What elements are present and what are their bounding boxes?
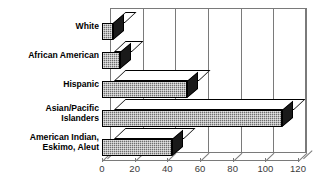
value-tick-mark [265,158,266,162]
value-axis-tick-labels: 020406080100120 [102,163,302,177]
value-tick-mark [135,158,136,162]
plot-area [102,8,298,160]
category-label: Asian/Pacific Islanders [0,104,99,123]
value-tick-label: 120 [283,163,313,174]
bar [102,73,195,90]
category-label: American Indian, Eskimo, Aleut [0,133,99,152]
value-tick-label: 60 [185,163,215,174]
category-axis-labels: WhiteAfrican AmericanHispanicAsian/Pacif… [0,10,101,158]
value-tick-mark [167,158,168,162]
value-tick-label: 80 [218,163,248,174]
bar [102,15,121,32]
bar-front-face [102,23,113,40]
bar-front-face [102,81,187,98]
value-tick-label: 100 [250,163,280,174]
bar-top-face [114,99,305,110]
bar-front-face [102,110,282,127]
value-tick-mark [200,158,201,162]
bar [102,44,128,61]
chart-title [0,0,314,2]
category-label: White [0,22,99,32]
bar-series [102,8,306,160]
value-tick-mark [233,158,234,162]
bar-side-face [113,13,124,39]
bar-top-face [114,128,196,139]
value-tick-label: 0 [87,163,117,174]
value-tick-mark [102,158,103,162]
bar [102,102,290,119]
value-tick-label: 40 [152,163,182,174]
bar [102,131,180,148]
value-tick-mark [298,158,299,162]
category-label: Hispanic [0,80,99,90]
value-tick-label: 20 [120,163,150,174]
category-label: African American [0,51,99,61]
gridline-120 [306,8,307,153]
bar-front-face [102,139,172,156]
bar-chart: WhiteAfrican AmericanHispanicAsian/Pacif… [0,0,314,187]
bar-front-face [102,52,120,69]
